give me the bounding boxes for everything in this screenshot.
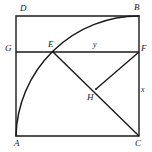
- label-vertex-c: C: [135, 139, 141, 148]
- label-vertex-a: A: [14, 139, 20, 148]
- label-vertex-g: G: [5, 44, 12, 53]
- label-vertex-h: H: [87, 93, 94, 102]
- geometry-figure: [0, 0, 152, 152]
- segment-hf: [96, 52, 139, 89]
- segment-ec: [53, 52, 139, 136]
- label-length-y: y: [93, 41, 97, 49]
- label-length-x: x: [141, 86, 145, 94]
- label-vertex-d: D: [20, 4, 27, 13]
- diagram-page: D B G E y F x H A C: [0, 0, 152, 152]
- vertex-point-e: [52, 51, 54, 53]
- vertex-point-h: [95, 88, 97, 90]
- label-vertex-e: E: [48, 40, 54, 49]
- label-vertex-b: B: [134, 3, 140, 12]
- label-vertex-f: F: [141, 44, 147, 53]
